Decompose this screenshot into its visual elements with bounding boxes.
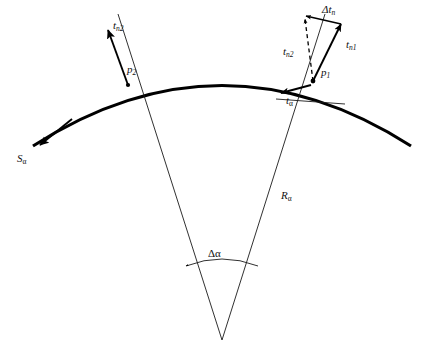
normal-vector-tn2-at-p1 [305,19,313,81]
label-delta-tn-sub: n [332,7,336,16]
label-tn2-at-p1: tn2 [283,45,294,59]
radius-line-to-p2 [118,14,222,340]
label-t-alpha-sub: α [289,98,293,107]
label-tn2-at-p2-sub: n2 [116,23,124,32]
arc-length-arrow [40,119,72,145]
label-p1: p1 [320,66,330,80]
label-r-alpha-sub: α [288,193,292,202]
label-t-alpha: tα [286,94,293,108]
radius-line-to-p1 [222,14,325,340]
radius-lines-group [118,14,325,340]
labels-group: Δtn tn1 tn2 p1 tα tn2 [17,3,357,259]
label-tn2-at-p1-sub: n2 [286,49,294,58]
label-p2-sub: 2 [133,67,137,76]
point-marker-p1 [311,79,316,84]
label-delta-tn: Δtn [321,3,336,17]
label-s-alpha-sub: α [23,156,27,165]
main-arc [33,86,411,147]
tangent-alpha-arrow [281,85,311,93]
label-p1-sub: 1 [327,70,331,79]
delta-normal-vector [306,16,341,24]
main-arc-group [33,86,411,147]
label-r-alpha: Rα [280,189,292,203]
label-tn2-at-p2: tn2 [113,19,124,33]
diagram-canvas: Δtn tn1 tn2 p1 tα tn2 [0,0,424,360]
point-marker-p2 [126,83,130,87]
curvature-diagram-svg: Δtn tn1 tn2 p1 tα tn2 [0,0,424,360]
normal-vector-tn2-at-p2 [108,30,128,85]
label-tn1-sub: n1 [349,42,357,51]
label-tn1: tn1 [346,38,357,52]
label-p2: p2 [126,63,137,77]
label-s-alpha: Sα [17,152,27,166]
label-delta-alpha: Δα [208,247,221,259]
normal-vector-p2-group [108,30,128,85]
